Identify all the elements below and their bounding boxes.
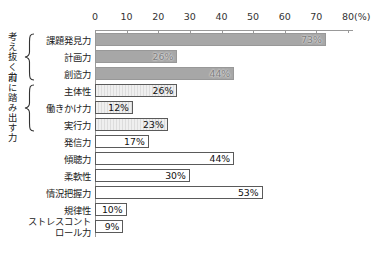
category-label: 傾聴力 [21, 153, 91, 164]
bar-value-label: 30% [165, 170, 189, 181]
x-axis-tick-label: 60 [272, 11, 298, 22]
bar: 44% [95, 152, 234, 165]
bar: 9% [95, 220, 123, 233]
category-label: 働きかけ力 [21, 102, 91, 113]
bar: 26% [95, 50, 177, 63]
bar: 73% [95, 33, 326, 46]
bar-value-label: 23% [143, 119, 167, 130]
bar-value-label: 26% [153, 51, 177, 62]
bar: 30% [95, 169, 190, 182]
bar: 17% [95, 135, 149, 148]
x-axis-tick-mark [348, 30, 349, 33]
x-axis-tick-label: 30 [177, 11, 203, 22]
bar-value-label: 44% [209, 153, 233, 164]
bar-value-label: 10% [102, 204, 126, 215]
category-label: 創造力 [21, 68, 91, 79]
category-label: 規律性 [21, 204, 91, 215]
bar: 44% [95, 67, 234, 80]
category-label: 課題発見力 [21, 34, 91, 45]
bar-value-label: 73% [301, 34, 325, 45]
x-axis-tick-label: 50 [240, 11, 266, 22]
category-label: 主体性 [21, 85, 91, 96]
category-label: 情況把握力 [21, 187, 91, 198]
x-axis-tick-label: 80 [335, 11, 361, 22]
bar: 12% [95, 101, 133, 114]
bar-chart: (%) 考え抜く力 前に踏み出す力 01020304050607080 課題発見… [0, 0, 384, 253]
bar: 10% [95, 203, 127, 216]
category-label: 実行力 [21, 119, 91, 130]
bar: 23% [95, 118, 168, 131]
x-axis-tick-label: 40 [209, 11, 235, 22]
category-label: 計画力 [21, 51, 91, 62]
group-label-stepping-forward: 前に踏み出す力 [5, 73, 19, 143]
x-axis-line [95, 30, 353, 31]
category-label: ストレスコントロール力 [21, 216, 91, 238]
x-axis-tick-label: 70 [303, 11, 329, 22]
bar-value-label: 12% [108, 102, 132, 113]
bar-value-label: 9% [105, 221, 123, 232]
category-label: 柔軟性 [21, 170, 91, 181]
bar-value-label: 26% [153, 85, 177, 96]
bar-value-label: 44% [209, 68, 233, 79]
category-label: 発信力 [21, 136, 91, 147]
bar-value-label: 53% [238, 187, 262, 198]
bar: 26% [95, 84, 177, 97]
x-axis-tick-label: 10 [114, 11, 140, 22]
x-axis-tick-label: 0 [82, 11, 108, 22]
bar: 53% [95, 186, 263, 199]
bar-value-label: 17% [124, 136, 148, 147]
x-axis-tick-label: 20 [145, 11, 171, 22]
